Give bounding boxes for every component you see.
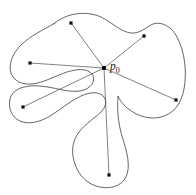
kernel-label-subscript: 0 <box>116 66 120 75</box>
kernel-point-p0 <box>102 66 106 70</box>
kernel-rays-group <box>23 23 176 175</box>
segment-to-lower-left <box>23 68 104 107</box>
point-bottom <box>107 173 110 176</box>
segment-to-top <box>71 23 104 68</box>
point-lower-left <box>21 105 24 108</box>
point-upper-right <box>142 34 145 37</box>
segment-to-upper-left <box>30 63 104 68</box>
star-shaped-region-diagram: p0 <box>0 0 196 195</box>
point-upper-left <box>28 61 31 64</box>
point-top <box>69 21 72 24</box>
segment-to-bottom <box>104 68 109 175</box>
figure-canvas: p0 <box>0 0 196 195</box>
boundary-points-group <box>21 21 177 176</box>
point-right <box>174 98 177 101</box>
